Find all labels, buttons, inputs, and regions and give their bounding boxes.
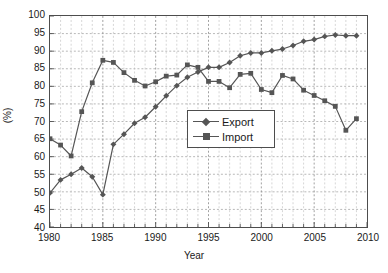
legend-item-import: Import (193, 129, 269, 144)
y-axis-tick-label: 80 (0, 81, 45, 91)
y-axis-tick-label: 85 (0, 63, 45, 73)
x-axis-tick-label: 2005 (295, 232, 335, 243)
x-axis-tick-label: 1980 (29, 232, 69, 243)
import-series-marker-icon (193, 131, 219, 143)
chart-legend: Export Import (187, 110, 275, 148)
y-axis-tick-label: 65 (0, 134, 45, 144)
x-axis-tick-label: 1990 (135, 232, 175, 243)
legend-label-import: Import (222, 131, 253, 143)
chart-container: 404550556065707580859095100 198019851990… (0, 0, 388, 273)
x-axis-tick-label: 2000 (242, 232, 282, 243)
y-axis-tick-label: 95 (0, 28, 45, 38)
legend-item-export: Export (193, 114, 269, 129)
export-series-marker-icon (193, 116, 219, 128)
x-axis-tick-label: 1995 (189, 232, 229, 243)
x-axis-tick-label: 1985 (82, 232, 122, 243)
legend-label-export: Export (222, 116, 254, 128)
y-axis-tick-label: 100 (0, 10, 45, 20)
y-axis-tick-label: 60 (0, 152, 45, 162)
x-axis-title: Year (0, 250, 388, 261)
y-axis-tick-label: 50 (0, 188, 45, 198)
x-axis-tick-label: 2010 (348, 232, 388, 243)
y-axis-title: (%) (2, 96, 13, 136)
y-axis-tick-label: 45 (0, 205, 45, 215)
y-axis-tick-label: 55 (0, 170, 45, 180)
y-axis-tick-label: 90 (0, 46, 45, 56)
